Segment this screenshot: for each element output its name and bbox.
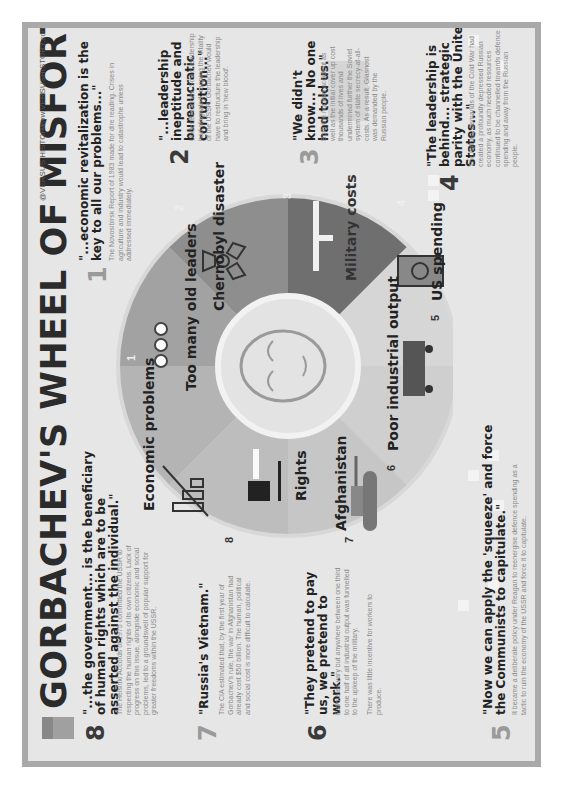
misfortune-wheel: Economic problems Too many old leaders C… [113,151,453,571]
item-body: The CIA estimated that, by the first yea… [218,575,252,715]
wedge-label-economic-problems: Economic problems [141,358,157,511]
item-quote: "...economic revitalization is the key t… [78,31,104,261]
social-handle: @VERSUS HISTORY [38,122,47,201]
decor-square [468,470,479,481]
wedge-label-industrial-output: Poor industrial output [385,276,401,451]
wedge-number: 2 [173,205,185,211]
wedge-number: 6 [385,465,397,471]
infographic-stage: GORBACHEV'S WHEEL OF MISFORTUNE @VERSUS … [0,0,566,804]
wedge-label-military-costs: Military costs [343,174,359,281]
item-body-2: There was little incentive for workers t… [366,565,383,715]
wedge-label-chernobyl: Chernobyl disaster [211,162,227,311]
title-accent-bar [42,717,74,739]
item-body: It became a deliberate policy under Reag… [511,455,528,715]
wedge-number: 1 [125,355,137,361]
wedge-label-afghanistan: Afghanistan [333,435,349,531]
item-body: The military demands of the Cold War had… [468,27,519,167]
wedge-number: 8 [223,537,235,543]
item-number: 7 [196,724,220,741]
wheel-graphic [113,151,453,571]
wedge-number: 7 [343,537,355,543]
infographic-card: GORBACHEV'S WHEEL OF MISFORTUNE @VERSUS … [22,22,541,767]
item-body: Estimates vary but anywhere between one … [334,565,360,715]
item-number: 5 [490,724,514,741]
decor-square [458,600,469,611]
item-body: Under Brezhnev, Soviet leadership had st… [188,31,231,141]
item-number: 1 [86,266,110,283]
website-url: www.VERSUSHISTORY.com [38,25,47,129]
item-number: 8 [84,724,108,741]
item-quote: "Now we can apply the 'squeeze' and forc… [482,415,508,715]
item-body: Both the nuclear accident as well as the… [320,46,388,141]
wedge-number: 5 [429,315,441,321]
wedge-number: 3 [281,193,293,199]
wedge-label-us-spending: US spending [429,202,445,301]
wedge-label-rights: Rights [293,450,309,501]
wedge-label-old-leaders: Too many old leaders [183,223,199,391]
wedge-number: 4 [395,200,407,206]
item-number: 6 [306,724,330,741]
